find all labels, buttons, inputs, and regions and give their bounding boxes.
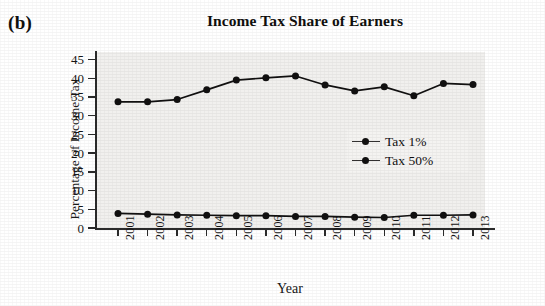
x-tick-label: 2011 [419,216,434,240]
x-tick [265,229,266,236]
y-tick [88,152,95,153]
x-tick [443,229,444,236]
x-tick-label: 2012 [448,215,463,240]
y-tick [88,209,95,210]
y-tick [88,115,95,116]
legend-label: Tax 1% [381,134,426,150]
legend-label: Tax 50% [381,153,433,169]
chart-title: Income Tax Share of Earners [150,12,460,30]
y-tick-label: 30 [50,109,84,122]
x-tick-label: 2001 [123,215,138,240]
x-tick [147,229,148,236]
x-tick-label: 2006 [271,215,286,240]
y-tick [88,96,95,97]
x-tick [472,229,473,236]
x-tick [176,229,177,236]
x-tick-label: 2013 [478,215,493,240]
y-tick-label: 10 [50,184,84,197]
y-tick [88,78,95,79]
y-tick-label: 25 [50,128,84,141]
x-tick-label: 2004 [212,215,227,240]
legend-item-tax-1[interactable]: Tax 1% [351,132,465,151]
y-tick [88,134,95,135]
legend-marker-icon [351,155,381,167]
x-tick-label: 2005 [241,215,256,240]
x-tick-label: 2009 [360,215,375,240]
y-tick-label: 45 [50,53,84,66]
y-tick-label: 15 [50,165,84,178]
y-tick-label: 20 [50,147,84,160]
x-tick [384,229,385,236]
x-tick-label: 2002 [153,215,168,240]
x-tick-label: 2007 [301,215,316,240]
y-tick-label: 5 [50,203,84,216]
y-tick-label: 40 [50,72,84,85]
legend[interactable]: Tax 1% Tax 50% [347,130,469,172]
x-tick [117,229,118,236]
x-tick [354,229,355,236]
legend-marker-icon [351,136,381,148]
x-tick [413,229,414,236]
chart-figure: (b) Income Tax Share of Earners Percenta… [0,0,545,306]
panel-letter: (b) [8,12,32,34]
x-tick [236,229,237,236]
x-tick-label: 2003 [182,215,197,240]
y-tick-label: 0 [50,222,84,235]
x-axis-label: Year [230,281,350,297]
legend-item-tax-50[interactable]: Tax 50% [351,151,465,170]
x-tick [295,229,296,236]
y-tick [88,227,95,228]
y-tick [88,59,95,60]
y-tick-label: 35 [50,90,84,103]
x-tick [324,229,325,236]
x-tick [206,229,207,236]
y-tick [88,171,95,172]
x-tick-label: 2010 [389,215,404,240]
y-tick [88,190,95,191]
x-tick-label: 2008 [330,215,345,240]
y-axis-line [95,51,97,229]
